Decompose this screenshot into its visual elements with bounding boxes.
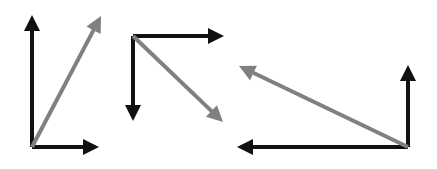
resultant-up-right-arrow-icon [32,16,101,147]
resultant-up-left-arrow-icon [239,66,408,147]
vertical-up-component-arrow-icon [24,15,40,147]
horizontal-right-component-arrowhead-icon [208,28,224,44]
horizontal-right-component-arrow-icon [133,28,224,44]
vertical-down-component-arrow-icon [125,36,141,121]
vertical-up-component-arrowhead-icon [24,15,40,31]
horizontal-left-component-arrow-icon [237,139,408,155]
resultant-up-left-shaft [252,72,408,147]
diagram-1 [24,15,101,155]
horizontal-right-component-arrowhead-icon [83,139,99,155]
vertical-up-component-arrow-icon [400,65,416,147]
resultant-down-right-shaft [133,36,213,112]
resultant-up-right-shaft [32,28,94,147]
diagram-2 [125,28,224,122]
vertical-down-component-arrowhead-icon [125,105,141,121]
resultant-down-right-arrow-icon [133,36,223,122]
diagram-3 [237,65,416,155]
horizontal-right-component-arrow-icon [32,139,99,155]
horizontal-left-component-arrowhead-icon [237,139,253,155]
vertical-up-component-arrowhead-icon [400,65,416,81]
vector-diagram-canvas [0,0,437,169]
